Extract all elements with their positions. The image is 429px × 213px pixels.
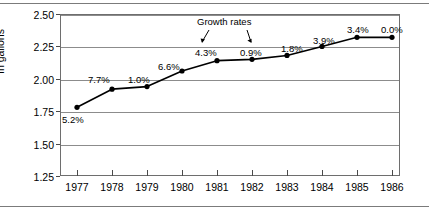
x-tick-label-1986: 1986	[372, 182, 412, 193]
x-tickmark-1978	[112, 170, 113, 176]
gridline-1-50	[61, 145, 399, 146]
point-label-1981: 4.3%	[195, 48, 217, 58]
growth-rates-annotation: Growth rates	[197, 17, 251, 27]
point-label-1978: 7.7%	[88, 75, 110, 85]
point-label-1979: 1.0%	[128, 75, 150, 85]
point-label-1980: 6.6%	[158, 62, 180, 72]
y-tick-label-2-50: 2.50	[18, 10, 54, 21]
point-label-1986: 0.0%	[381, 25, 403, 35]
x-tickmark-1986	[392, 170, 393, 176]
x-tick-label-1977: 1977	[57, 182, 97, 193]
y-tickmark-1-25	[56, 176, 60, 177]
point-label-1983: 1.8%	[281, 44, 303, 54]
x-tick-label-1984: 1984	[302, 182, 342, 193]
gridline-2-00	[61, 80, 399, 81]
y-tick-label-1-75: 1.75	[18, 107, 54, 118]
x-tick-label-1982: 1982	[232, 182, 272, 193]
y-tick-label-1-25: 1.25	[18, 172, 54, 183]
x-tickmark-1982	[252, 170, 253, 176]
gridline-1-75	[61, 112, 399, 113]
x-tick-label-1980: 1980	[162, 182, 202, 193]
y-tick-label-1-50: 1.50	[18, 140, 54, 151]
x-tick-label-1978: 1978	[92, 182, 132, 193]
x-tickmark-1977	[77, 170, 78, 176]
point-label-1984: 3.9%	[313, 36, 335, 46]
x-tickmark-1980	[182, 170, 183, 176]
plot-area	[60, 14, 400, 176]
x-tick-label-1983: 1983	[267, 182, 307, 193]
y-axis-title: In gallons	[0, 29, 6, 74]
point-label-1985: 3.4%	[347, 25, 369, 35]
x-tickmark-1979	[147, 170, 148, 176]
x-tick-label-1981: 1981	[197, 182, 237, 193]
point-label-1982: 0.9%	[240, 48, 262, 58]
chart-figure: In gallons 2.50 2.25 2.00 1.75 1.50 1.25…	[0, 0, 429, 213]
bottom-divider	[0, 206, 429, 207]
x-tick-label-1979: 1979	[127, 182, 167, 193]
point-label-1977: 5.2%	[62, 115, 84, 125]
x-tickmark-1983	[287, 170, 288, 176]
x-tick-label-1985: 1985	[337, 182, 377, 193]
y-tick-label-2-25: 2.25	[18, 42, 54, 53]
top-divider	[0, 3, 429, 4]
x-tickmark-1984	[322, 170, 323, 176]
x-tickmark-1981	[217, 170, 218, 176]
x-tickmark-1985	[357, 170, 358, 176]
y-tick-label-2-00: 2.00	[18, 75, 54, 86]
gridline-2-25	[61, 47, 399, 48]
